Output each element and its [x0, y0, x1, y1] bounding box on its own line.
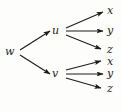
- node-label-x-lower: x: [107, 56, 113, 67]
- edge-u-to-x: [66, 12, 103, 28]
- node-label-v: v: [52, 68, 58, 79]
- node-label-w: w: [5, 46, 14, 57]
- node-label-y-upper: y: [107, 25, 113, 36]
- node-label-u: u: [52, 25, 59, 36]
- graph-canvas: [0, 0, 121, 112]
- edge-u-to-z: [66, 35, 101, 49]
- node-label-x-upper: x: [107, 5, 113, 16]
- node-label-z-lower: z: [107, 83, 113, 94]
- edge-w-to-v: [20, 55, 50, 74]
- edge-group: [20, 12, 103, 88]
- edge-v-to-z: [66, 78, 101, 88]
- node-label-y-lower: y: [107, 68, 113, 79]
- edge-w-to-u: [20, 31, 50, 50]
- graph-figure: w u v x y z x y z: [0, 0, 121, 112]
- edge-v-to-x: [66, 61, 101, 70]
- node-label-z-upper: z: [107, 44, 113, 55]
